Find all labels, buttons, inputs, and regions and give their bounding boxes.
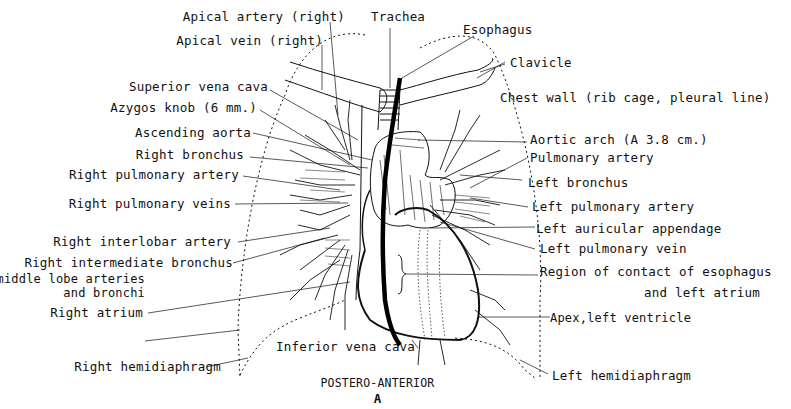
contact-brace <box>398 255 406 294</box>
label-right-middle-lobe-line1: Right middle lobe arteries <box>0 272 145 286</box>
panel-letter: A <box>365 392 390 406</box>
label-right-pulmonary-artery: Right pulmonary artery <box>69 168 239 182</box>
label-aortic-arch: Aortic arch (A 3.8 cm.) <box>530 133 708 147</box>
label-pulmonary-artery: Pulmonary artery <box>530 151 654 165</box>
atrium-dotted-lines <box>418 230 445 340</box>
label-region-contact-line1: Region of contact of esophagus <box>540 265 772 279</box>
label-trachea: Trachea <box>371 10 425 24</box>
label-superior-vena-cava: Superior vena cava <box>129 80 268 94</box>
label-left-bronchus: Left bronchus <box>528 176 628 190</box>
label-inferior-vena-cava: Inferior vena cava <box>276 340 415 354</box>
label-chest-wall: Chest wall (rib cage, pleural line) <box>500 91 770 105</box>
right-hemidiaphragm-line <box>240 300 345 375</box>
left-chest-wall <box>420 36 541 380</box>
label-right-hemidiaphragm: Right hemidiaphragm <box>74 360 221 374</box>
label-right-middle-lobe-line2: and bronchi <box>63 286 145 300</box>
label-apex-left-ventricle: Apex,left ventricle <box>550 311 691 325</box>
left-clavicle <box>400 58 495 105</box>
label-apical-artery-right: Apical artery (right) <box>183 10 345 24</box>
view-title: POSTERO-ANTERIOR <box>315 376 440 390</box>
label-left-hemidiaphragm: Left hemidiaphragm <box>552 369 691 383</box>
label-esophagus: Esophagus <box>463 23 533 37</box>
label-apical-vein-right: Apical vein (right) <box>176 34 323 48</box>
label-left-pulmonary-vein: Left pulmonary vein <box>540 242 687 256</box>
left-hilar-hatching <box>455 195 490 222</box>
label-right-bronchus: Right bronchus <box>136 148 244 162</box>
label-ascending-aorta: Ascending aorta <box>135 126 251 140</box>
leader-lines-left <box>145 22 372 367</box>
right-heart-border <box>362 190 370 250</box>
left-hilar-vessels <box>418 110 510 365</box>
esophagus-stroke <box>383 78 400 345</box>
label-right-atrium: Right atrium <box>50 306 143 320</box>
chest-diagram: Apical artery (right) Apical vein (right… <box>0 0 791 409</box>
leader-lines-right <box>390 28 550 374</box>
label-right-interlobar-artery: Right interlobar artery <box>53 235 231 249</box>
label-region-contact-line2: and left atrium <box>644 286 760 300</box>
label-right-intermediate-bronchus: Right intermediate bronchus <box>24 256 233 270</box>
label-left-auricular-appendage: Left auricular appendage <box>536 222 721 236</box>
label-right-pulmonary-veins: Right pulmonary veins <box>69 197 231 211</box>
left-hemidiaphragm-line <box>455 338 535 378</box>
label-clavicle: Clavicle <box>510 56 572 70</box>
label-azygos-knob: Azygos knob (6 mm.) <box>110 101 257 115</box>
label-left-pulmonary-artery: Left pulmonary artery <box>532 200 694 214</box>
